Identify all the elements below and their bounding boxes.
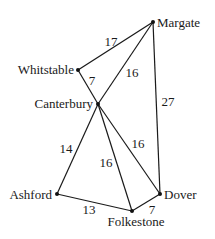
edge-weight-canterbury-folkestone: 16 xyxy=(100,155,114,170)
edge-weight-margate-dover: 27 xyxy=(162,94,176,109)
edge-weight-whitstable-canterbury: 7 xyxy=(89,73,96,88)
node-label-ashford: Ashford xyxy=(9,187,52,202)
node-whitstable xyxy=(76,68,80,72)
edge-weight-canterbury-ashford: 14 xyxy=(60,141,74,156)
node-ashford xyxy=(55,192,59,196)
node-dover xyxy=(158,192,162,196)
node-label-margate: Margate xyxy=(157,15,200,30)
node-margate xyxy=(151,20,155,24)
edge-folkestone-dover xyxy=(132,194,160,211)
node-canterbury xyxy=(96,102,100,106)
node-label-canterbury: Canterbury xyxy=(35,96,94,111)
edge-canterbury-dover xyxy=(98,104,160,194)
edge-weight-margate-canterbury: 16 xyxy=(126,65,140,80)
node-folkestone xyxy=(130,209,134,213)
edge-margate-dover xyxy=(153,22,160,194)
edges-group xyxy=(57,22,160,211)
weighted-graph-diagram: 1716277141616137 MargateWhitstableCanter… xyxy=(0,0,215,239)
edge-weight-margate-whitstable: 17 xyxy=(105,34,119,49)
edge-weight-ashford-folkestone: 13 xyxy=(83,202,96,217)
node-label-whitstable: Whitstable xyxy=(18,62,75,77)
edge-weight-canterbury-dover: 16 xyxy=(132,136,146,151)
node-label-folkestone: Folkestone xyxy=(107,214,164,229)
node-label-dover: Dover xyxy=(164,187,197,202)
